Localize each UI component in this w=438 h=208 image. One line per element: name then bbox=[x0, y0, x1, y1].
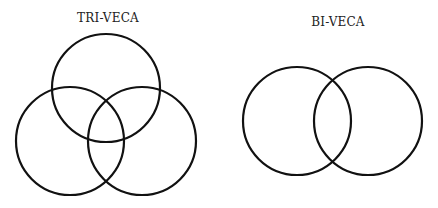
circles-canvas bbox=[0, 0, 438, 208]
bi-veca-right-circle bbox=[314, 67, 422, 175]
tri-veca-diagram bbox=[16, 34, 196, 195]
bi-veca-diagram bbox=[243, 67, 422, 175]
bi-veca-title: BI-VECA bbox=[311, 15, 364, 29]
venn-diagrams: TRI-VECA BI-VECA bbox=[0, 0, 438, 208]
bi-veca-left-circle bbox=[243, 67, 351, 175]
tri-veca-title: TRI-VECA bbox=[77, 11, 139, 25]
